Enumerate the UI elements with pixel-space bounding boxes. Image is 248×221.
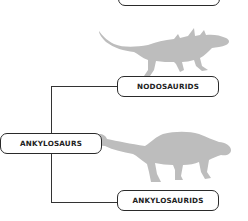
top-clade-box	[118, 0, 220, 6]
nodosaurids-box: NODOSAURIDS	[117, 76, 219, 97]
connector-to-nodosaurids	[51, 86, 118, 87]
ankylosaur-silhouette-icon	[91, 130, 241, 192]
nodosaur-silhouette-icon	[96, 26, 236, 78]
ankylosaurs-label: ANKYLOSAURS	[20, 139, 82, 148]
nodosaurids-label: NODOSAURIDS	[137, 82, 199, 91]
ankylosaurids-label: ANKYLOSAURIDS	[132, 196, 203, 205]
connector-to-ankylosaurids	[51, 202, 118, 203]
ankylosaurids-box: ANKYLOSAURIDS	[117, 190, 219, 211]
ankylosaurs-box: ANKYLOSAURS	[0, 133, 102, 154]
